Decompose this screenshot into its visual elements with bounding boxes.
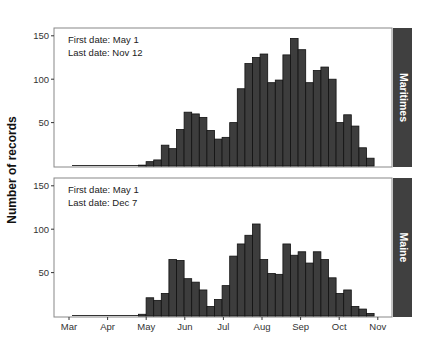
first-date-annotation: First date: May 1: [68, 34, 139, 45]
histogram-bar: [184, 279, 192, 316]
histogram-bar: [139, 314, 147, 316]
y-tick-label: 100: [33, 74, 49, 85]
histogram-bar: [169, 149, 177, 166]
last-date-annotation: Last date: Dec 7: [68, 197, 137, 208]
histogram-bar: [237, 89, 245, 166]
histogram-bar: [146, 162, 154, 166]
histogram-bar: [237, 244, 245, 316]
x-tick-label: Jun: [177, 321, 192, 332]
histogram-bar: [177, 130, 185, 166]
histogram-bar: [169, 260, 177, 316]
y-tick-label: 50: [38, 117, 49, 128]
histogram-bar: [245, 235, 253, 316]
x-tick-label: Apr: [100, 321, 115, 332]
histogram-bar: [230, 123, 238, 166]
histogram-bar: [275, 80, 283, 166]
histogram-bar: [139, 165, 147, 166]
histogram-bar: [268, 273, 276, 316]
histogram-bar: [192, 114, 200, 166]
histogram-bar: [336, 123, 344, 166]
histogram-bar: [215, 139, 223, 166]
x-tick-label: Nov: [369, 321, 386, 332]
histogram-bar: [283, 55, 291, 166]
histogram-bar: [313, 252, 321, 316]
histogram-bar: [260, 54, 268, 166]
histogram-bar: [344, 290, 352, 316]
histogram-bar: [161, 293, 169, 316]
facet-strip-label: Maine: [398, 233, 410, 263]
histogram-bar: [351, 126, 359, 166]
histogram-bar: [260, 260, 268, 316]
y-tick-label: 150: [33, 30, 49, 41]
y-tick-label: 150: [33, 180, 49, 191]
histogram-bar: [291, 255, 299, 316]
x-tick-label: Oct: [332, 321, 347, 332]
y-tick-label: 50: [38, 267, 49, 278]
histogram-bar: [367, 313, 375, 316]
histogram-bar: [298, 252, 306, 316]
histogram-bar: [154, 160, 162, 166]
histogram-bar: [321, 260, 329, 316]
panel-maritimes: 50100150First date: May 1Last date: Nov …: [33, 28, 412, 167]
histogram-bar: [306, 263, 314, 316]
histogram-bar: [344, 115, 352, 166]
histogram-bar: [367, 158, 375, 166]
histogram-bar: [283, 244, 291, 316]
x-tick-label: May: [137, 321, 155, 332]
histogram-bar: [222, 137, 230, 166]
x-tick-label: Aug: [254, 321, 271, 332]
histogram-bar: [192, 282, 200, 316]
histogram-bar: [222, 286, 230, 316]
histogram-bar: [253, 224, 261, 316]
histogram-bar: [245, 64, 253, 166]
histogram-bar: [199, 290, 207, 316]
histogram-bar: [291, 38, 299, 166]
first-date-annotation: First date: May 1: [68, 184, 139, 195]
histogram-bar: [359, 148, 367, 166]
histogram-bar: [184, 112, 192, 166]
histogram-bar: [336, 293, 344, 316]
last-date-annotation: Last date: Nov 12: [68, 47, 142, 58]
histogram-bar: [199, 117, 207, 166]
histogram-bar: [351, 306, 359, 316]
histogram-bar: [230, 256, 238, 316]
histogram-bar: [177, 260, 185, 316]
x-tick-label: Sep: [292, 321, 309, 332]
histogram-bar: [154, 300, 162, 316]
histogram-bar: [329, 278, 337, 316]
histogram-bar: [306, 83, 314, 166]
panel-maine: 50100150First date: May 1Last date: Dec …: [33, 178, 412, 317]
histogram-bar: [207, 130, 215, 166]
x-axis: MarAprMayJunJulAugSepOctNov: [61, 317, 387, 332]
y-tick-label: 100: [33, 224, 49, 235]
histogram-bar: [329, 79, 337, 166]
histogram-bar: [313, 71, 321, 166]
histogram-bar: [298, 50, 306, 166]
histogram-bar: [268, 83, 276, 166]
histogram-bar: [275, 274, 283, 316]
histogram-bar: [321, 67, 329, 166]
facet-strip-label: Maritimes: [398, 73, 410, 122]
histogram-bar: [161, 145, 169, 166]
x-tick-label: Jul: [217, 321, 229, 332]
x-tick-label: Mar: [61, 321, 77, 332]
histogram-bar: [207, 306, 215, 316]
histogram-bar: [253, 58, 261, 167]
histogram-bar: [146, 298, 154, 316]
histogram-bar: [215, 300, 223, 316]
histogram-bar: [359, 309, 367, 316]
faceted-histogram-chart: 50100150First date: May 1Last date: Nov …: [0, 0, 433, 345]
